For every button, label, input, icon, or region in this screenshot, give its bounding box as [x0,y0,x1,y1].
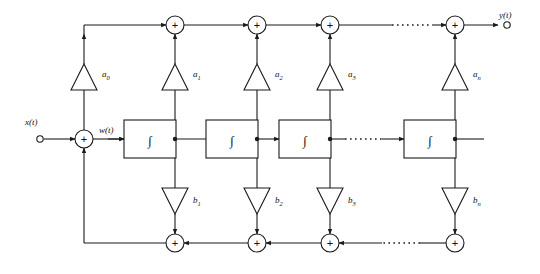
input-adder-plus: + [81,133,87,145]
bottom-adder-3-plus: + [327,237,333,249]
bottom-adder-1-plus: + [172,237,178,249]
signal-flow-diagram: x(t) y(t) w(t) ∫ ∫ ∫ ∫ + + + + + + + + +… [0,0,540,274]
gain-b1-label: b1 [193,195,201,207]
gain-a1-label: a1 [193,69,201,81]
feedback-amplifiers [162,188,468,214]
internal-signal-label: w(t) [99,125,114,135]
input-label: x(t) [24,117,38,127]
gain-a3-label: a3 [348,69,357,81]
gain-b2-label: b2 [275,195,284,207]
output-label: y(t) [498,10,512,20]
top-adder-1-plus: + [172,19,178,31]
gain-b3-label: b3 [348,195,357,207]
input-terminal [37,136,43,142]
gain-bn-label: bn [473,195,481,207]
top-adder-3-plus: + [327,19,333,31]
gain-a0-label: a0 [102,69,111,81]
diagram-canvas: x(t) y(t) w(t) ∫ ∫ ∫ ∫ + + + + + + + + +… [0,0,540,274]
top-adder-n-plus: + [452,19,458,31]
feedforward-amplifiers [71,64,468,90]
gain-an-label: an [473,69,481,81]
gain-a2-label: a2 [275,69,284,81]
top-adder-2-plus: + [254,19,260,31]
output-terminal [504,22,510,28]
bottom-adder-n-plus: + [452,237,458,249]
bottom-adder-2-plus: + [254,237,260,249]
